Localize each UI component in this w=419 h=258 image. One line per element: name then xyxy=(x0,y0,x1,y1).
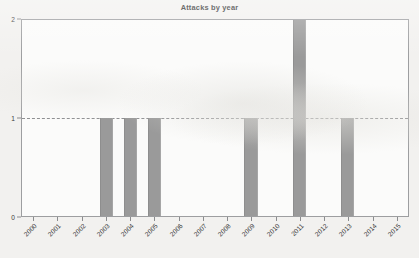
x-label-cell-2004: 2004 xyxy=(118,220,142,258)
bar-2003[interactable] xyxy=(100,118,114,216)
bar-slot-2003 xyxy=(94,20,118,216)
x-tick-label-2015: 2015 xyxy=(386,222,402,238)
y-tick-label-1: 1 xyxy=(11,115,15,122)
x-tick-label-2003: 2003 xyxy=(95,222,111,238)
x-label-cell-2008: 2008 xyxy=(215,220,239,258)
plot-inner xyxy=(22,20,408,216)
bar-slot-2015 xyxy=(384,20,408,216)
bar-slot-2012 xyxy=(312,20,336,216)
bar-slot-2011 xyxy=(287,20,311,216)
bar-slot-2002 xyxy=(70,20,94,216)
x-tick-label-2002: 2002 xyxy=(71,222,87,238)
bar-2004[interactable] xyxy=(124,118,138,216)
bar-2009[interactable] xyxy=(244,118,258,216)
y-tick-mark-1 xyxy=(17,118,21,119)
bar-2013[interactable] xyxy=(341,118,355,216)
x-axis-labels: 2000200120022003200420052006200720082009… xyxy=(21,220,409,258)
bar-slot-2005 xyxy=(143,20,167,216)
y-tick-label-2: 2 xyxy=(11,16,15,23)
bar-2005[interactable] xyxy=(148,118,162,216)
bar-slot-2000 xyxy=(22,20,46,216)
x-label-cell-2010: 2010 xyxy=(264,220,288,258)
x-tick-label-2001: 2001 xyxy=(47,222,63,238)
x-tick-label-2004: 2004 xyxy=(119,222,135,238)
bar-slot-2004 xyxy=(119,20,143,216)
x-tick-label-2008: 2008 xyxy=(216,222,232,238)
bar-2011[interactable] xyxy=(293,20,307,216)
x-label-cell-2003: 2003 xyxy=(94,220,118,258)
bar-slot-2008 xyxy=(215,20,239,216)
bar-slot-2009 xyxy=(239,20,263,216)
x-label-cell-2013: 2013 xyxy=(336,220,360,258)
x-tick-label-2007: 2007 xyxy=(192,222,208,238)
x-label-cell-2002: 2002 xyxy=(70,220,94,258)
x-label-cell-2007: 2007 xyxy=(191,220,215,258)
x-label-cell-2015: 2015 xyxy=(385,220,409,258)
x-tick-label-2012: 2012 xyxy=(313,222,329,238)
x-tick-label-2006: 2006 xyxy=(168,222,184,238)
bar-slot-2013 xyxy=(336,20,360,216)
x-label-cell-2001: 2001 xyxy=(45,220,69,258)
plot-area xyxy=(21,19,409,217)
x-tick-label-2010: 2010 xyxy=(265,222,281,238)
x-tick-label-2000: 2000 xyxy=(22,222,38,238)
chart-title: Attacks by year xyxy=(0,3,419,12)
x-tick-label-2009: 2009 xyxy=(241,222,257,238)
y-tick-label-0: 0 xyxy=(11,214,15,221)
y-tick-mark-2 xyxy=(17,19,21,20)
bar-slot-2014 xyxy=(360,20,384,216)
y-axis: 2 1 0 xyxy=(0,19,21,217)
bar-slot-2006 xyxy=(167,20,191,216)
x-label-cell-2014: 2014 xyxy=(361,220,385,258)
x-tick-label-2011: 2011 xyxy=(290,222,305,237)
x-tick-label-2013: 2013 xyxy=(338,222,354,238)
x-tick-label-2005: 2005 xyxy=(144,222,160,238)
bars-layer xyxy=(22,20,408,216)
x-label-cell-2000: 2000 xyxy=(21,220,45,258)
bar-slot-2010 xyxy=(263,20,287,216)
x-label-cell-2009: 2009 xyxy=(239,220,263,258)
x-label-cell-2005: 2005 xyxy=(142,220,166,258)
x-label-cell-2012: 2012 xyxy=(312,220,336,258)
bar-slot-2007 xyxy=(191,20,215,216)
x-tick-label-2014: 2014 xyxy=(362,222,378,238)
x-label-cell-2011: 2011 xyxy=(288,220,312,258)
bar-slot-2001 xyxy=(46,20,70,216)
x-label-cell-2006: 2006 xyxy=(167,220,191,258)
